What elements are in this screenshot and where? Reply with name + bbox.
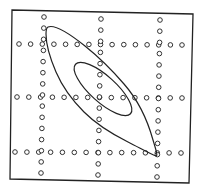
grid-dot <box>156 107 161 112</box>
grid-dot <box>52 42 57 47</box>
grid-dot <box>97 128 102 133</box>
grid-dot <box>39 171 44 176</box>
grid-dot <box>97 95 102 100</box>
grid-dot <box>179 151 184 156</box>
grid-dot <box>98 72 103 77</box>
grid-dot <box>96 139 101 144</box>
grid-dot <box>109 95 114 100</box>
grid-dot <box>74 95 79 100</box>
grid-dot <box>156 85 161 90</box>
contour-diagram <box>0 0 198 188</box>
grid-dot <box>40 42 45 47</box>
grid-dot <box>156 96 161 101</box>
grid-dot <box>40 104 45 109</box>
grid-dot <box>180 96 185 101</box>
grid-dot <box>87 42 92 47</box>
grid-dot <box>40 115 45 120</box>
dotted-grid <box>13 15 185 180</box>
grid-dot <box>155 164 160 169</box>
grid-dot <box>39 137 44 142</box>
grid-dot <box>168 96 173 101</box>
grid-dot <box>98 50 103 55</box>
grid-dot <box>156 130 161 135</box>
grid-dot <box>96 162 101 167</box>
grid-dot <box>96 150 101 155</box>
grid-dot <box>40 126 45 131</box>
grid-dot <box>98 39 103 44</box>
grid-dot <box>133 42 138 47</box>
grid-dot <box>155 141 160 146</box>
grid-dot <box>110 42 115 47</box>
grid-dot <box>28 42 33 47</box>
grid-dot <box>27 95 32 100</box>
grid-dot <box>39 148 44 153</box>
grid-dot <box>131 150 136 155</box>
grid-dot <box>13 150 18 155</box>
grid-dot <box>97 117 102 122</box>
grid-dot <box>63 42 68 47</box>
grid-dot <box>72 150 77 155</box>
grid-dot <box>42 26 47 31</box>
grid-dot <box>180 43 185 48</box>
grid-dot <box>75 42 80 47</box>
grid-dot <box>60 150 65 155</box>
diagram-canvas <box>0 0 198 188</box>
grid-dot <box>40 93 45 98</box>
grid-dot <box>42 15 47 20</box>
grid-dot <box>157 63 162 68</box>
grid-dot <box>97 84 102 89</box>
grid-dot <box>99 17 104 22</box>
grid-dot <box>157 40 162 45</box>
grid-dot <box>98 61 103 66</box>
grid-dot <box>85 95 90 100</box>
grid-dot <box>121 95 126 100</box>
grid-dot <box>119 150 124 155</box>
grid-dot <box>96 173 101 178</box>
grid-dot <box>17 42 22 47</box>
grid-dot <box>157 51 162 56</box>
grid-dot <box>41 59 46 64</box>
grid-dot <box>48 150 53 155</box>
grid-dot <box>122 42 127 47</box>
grid-dot <box>39 160 44 165</box>
grid-dot <box>50 95 55 100</box>
grid-dot <box>97 106 102 111</box>
grid-dot <box>41 48 46 53</box>
grid-dot <box>158 29 163 34</box>
grid-dot <box>157 74 162 79</box>
grid-dot <box>40 82 45 87</box>
grid-dot <box>62 95 67 100</box>
grid-dot <box>84 150 89 155</box>
grid-dot <box>168 43 173 48</box>
grid-dot <box>41 70 46 75</box>
grid-dot <box>108 150 113 155</box>
grid-dot <box>158 18 163 23</box>
grid-dot <box>15 95 20 100</box>
grid-dot <box>144 96 149 101</box>
grid-dot <box>155 175 160 180</box>
grid-dot <box>99 28 104 33</box>
grid-dot <box>145 43 150 48</box>
grid-dot <box>156 119 161 124</box>
grid-dot <box>25 150 30 155</box>
grid-dot <box>167 151 172 156</box>
grid-dot <box>41 37 46 42</box>
